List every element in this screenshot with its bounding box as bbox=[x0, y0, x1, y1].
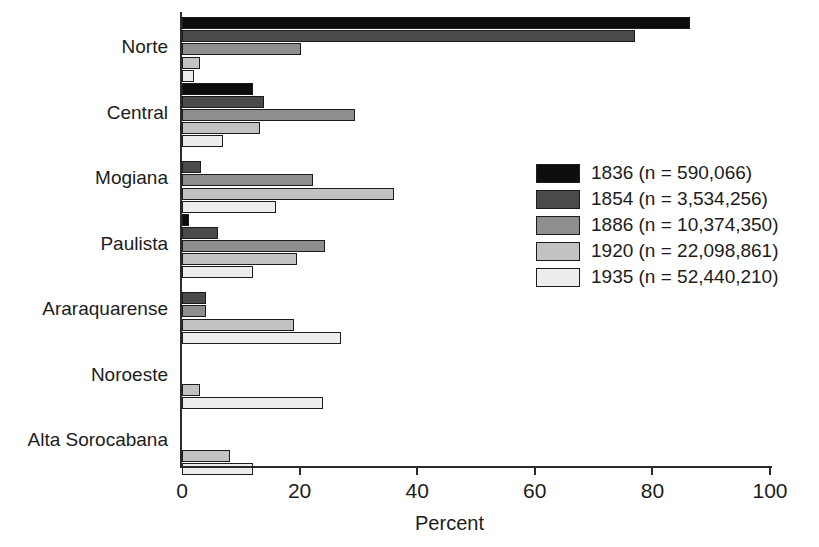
bar bbox=[182, 30, 635, 42]
bar bbox=[182, 201, 276, 213]
x-axis-tick-label: 40 bbox=[406, 479, 429, 503]
bar bbox=[182, 70, 194, 82]
bar bbox=[182, 122, 260, 134]
bar-group bbox=[182, 83, 770, 149]
bar bbox=[182, 332, 341, 344]
x-axis-title-wrap: Percent bbox=[0, 512, 819, 535]
x-axis-tick-label: 20 bbox=[288, 479, 311, 503]
x-axis-tick-label: 60 bbox=[523, 479, 546, 503]
category-label: Paulista bbox=[0, 233, 174, 255]
legend-swatch bbox=[536, 164, 580, 183]
category-label-text: Norte bbox=[122, 36, 174, 57]
category-label: Mogiana bbox=[0, 167, 174, 189]
x-axis-line bbox=[180, 466, 772, 468]
legend-item: 1886 (n = 10,374,350) bbox=[536, 212, 779, 238]
x-axis-tick bbox=[534, 466, 536, 475]
bar bbox=[182, 266, 253, 278]
category-label-text: Mogiana bbox=[95, 167, 174, 188]
bar bbox=[182, 292, 206, 304]
legend-label: 1920 (n = 22,098,861) bbox=[591, 240, 779, 262]
x-axis-tick bbox=[651, 466, 653, 475]
category-label: Norte bbox=[0, 36, 174, 58]
bar bbox=[182, 240, 325, 252]
legend-swatch bbox=[536, 190, 580, 209]
legend-label: 1886 (n = 10,374,350) bbox=[591, 214, 779, 236]
x-axis-tick bbox=[769, 466, 771, 475]
y-axis-line bbox=[180, 12, 182, 467]
bar bbox=[182, 450, 230, 462]
category-label: Noroeste bbox=[0, 364, 174, 386]
category-label-text: Alta Sorocabana bbox=[28, 429, 175, 450]
legend-swatch bbox=[536, 216, 580, 235]
bar bbox=[182, 135, 223, 147]
category-label: Araraquarense bbox=[0, 298, 174, 320]
bar bbox=[182, 57, 200, 69]
bar bbox=[182, 17, 690, 29]
x-axis-tick bbox=[299, 466, 301, 475]
legend-swatch bbox=[536, 268, 580, 287]
bar bbox=[182, 161, 201, 173]
bar bbox=[182, 305, 206, 317]
x-axis-tick-label: 80 bbox=[641, 479, 664, 503]
category-label-text: Araraquarense bbox=[42, 298, 174, 319]
x-axis-title: Percent bbox=[415, 512, 484, 535]
bar bbox=[182, 397, 323, 409]
category-label: Central bbox=[0, 102, 174, 124]
legend-label: 1836 (n = 590,066) bbox=[591, 162, 752, 184]
bar bbox=[182, 253, 297, 265]
bar bbox=[182, 109, 355, 121]
legend-item: 1854 (n = 3,534,256) bbox=[536, 186, 779, 212]
x-axis-tick bbox=[416, 466, 418, 475]
category-label-text: Central bbox=[107, 102, 174, 123]
category-label-text: Paulista bbox=[100, 233, 174, 254]
bar-group bbox=[182, 17, 770, 83]
bar bbox=[182, 319, 294, 331]
bar-chart-figure: NorteCentralMogianaPaulistaAraraquarense… bbox=[0, 0, 819, 547]
x-axis-tick-label: 0 bbox=[176, 479, 188, 503]
legend-item: 1935 (n = 52,440,210) bbox=[536, 264, 779, 290]
bar bbox=[182, 83, 253, 95]
bar bbox=[182, 43, 301, 55]
bar bbox=[182, 96, 264, 108]
category-label-text: Noroeste bbox=[91, 364, 174, 385]
bar bbox=[182, 188, 394, 200]
bar bbox=[182, 214, 189, 226]
legend-label: 1854 (n = 3,534,256) bbox=[591, 188, 768, 210]
bar bbox=[182, 227, 218, 239]
legend-item: 1920 (n = 22,098,861) bbox=[536, 238, 779, 264]
legend-swatch bbox=[536, 242, 580, 261]
bar bbox=[182, 174, 313, 186]
legend-item: 1836 (n = 590,066) bbox=[536, 160, 779, 186]
category-label: Alta Sorocabana bbox=[0, 429, 174, 451]
legend: 1836 (n = 590,066)1854 (n = 3,534,256)18… bbox=[536, 160, 779, 290]
bar bbox=[182, 384, 200, 396]
bar bbox=[182, 463, 253, 475]
bar-group bbox=[182, 345, 770, 411]
x-axis-tick-label: 100 bbox=[752, 479, 787, 503]
legend-label: 1935 (n = 52,440,210) bbox=[591, 266, 779, 288]
